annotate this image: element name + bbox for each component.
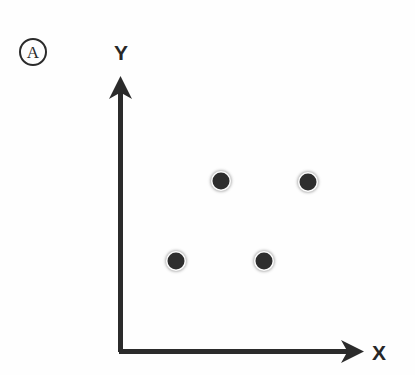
- data-point: [168, 253, 185, 270]
- data-point: [213, 173, 230, 190]
- data-point: [300, 174, 317, 191]
- axes-group: [0, 0, 415, 375]
- data-point: [256, 253, 273, 270]
- x-axis-label: X: [372, 342, 386, 363]
- y-axis-label: Y: [114, 42, 128, 63]
- figure-panel-a: A Y X: [0, 0, 415, 375]
